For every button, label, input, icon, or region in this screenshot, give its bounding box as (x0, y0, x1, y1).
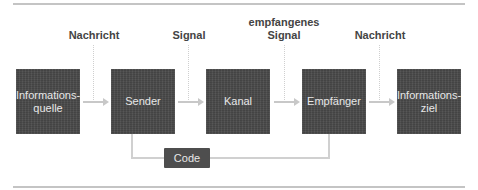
box-informationsquelle: Informations- quelle (16, 69, 80, 134)
label-connector-4 (379, 45, 380, 100)
label-connector-3 (284, 45, 285, 100)
arrow-kanal-to-empfaenger (274, 101, 295, 103)
edge-label-signal: Signal (172, 29, 205, 42)
arrow-quelle-to-sender (83, 101, 104, 103)
edge-label-nachricht-2: Nachricht (355, 29, 406, 42)
box-code: Code (164, 148, 210, 168)
top-rule (13, 3, 465, 5)
box-sender: Sender (111, 69, 175, 134)
label-connector-2 (188, 45, 189, 100)
edge-label-nachricht-1: Nachricht (69, 29, 120, 42)
arrow-sender-to-kanal (178, 101, 199, 103)
bottom-rule (13, 186, 465, 188)
box-informationsziel: Informations- ziel (397, 69, 461, 134)
box-empfaenger: Empfänger (302, 69, 366, 134)
code-connector-left-horizontal (131, 157, 164, 159)
code-connector-right-vertical (328, 134, 330, 159)
code-connector-right-horizontal (210, 157, 330, 159)
label-connector-1 (93, 45, 94, 100)
arrow-empfaenger-to-ziel (369, 101, 390, 103)
code-connector-left-vertical (131, 134, 133, 159)
box-kanal: Kanal (206, 69, 270, 134)
edge-label-empfangenes-signal: empfangenes Signal (249, 16, 320, 42)
